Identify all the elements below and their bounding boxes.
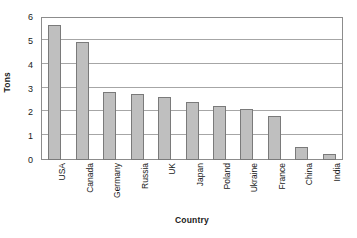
x-axis-tick-label: UK bbox=[168, 163, 177, 175]
x-axis-tick-label: Japan bbox=[196, 163, 205, 186]
gridline bbox=[42, 63, 342, 64]
y-axis-tick-label: 4 bbox=[28, 60, 33, 69]
x-axis-tick-label: Poland bbox=[223, 163, 232, 189]
x-axis-tick-label: Ukraine bbox=[250, 163, 259, 192]
x-axis-tick-label: India bbox=[333, 163, 342, 181]
x-axis-tick-label: China bbox=[305, 163, 314, 185]
y-axis-tick-label: 3 bbox=[28, 84, 33, 93]
bar-chart-figure: Tons 0123456 USACanadaGermanyRussiaUKJap… bbox=[0, 0, 357, 238]
plot-area bbox=[41, 17, 343, 160]
y-axis-tick-label: 0 bbox=[28, 156, 33, 165]
x-axis-tick-label: Germany bbox=[113, 163, 122, 198]
gridline bbox=[42, 39, 342, 40]
y-axis-tick-label: 2 bbox=[28, 108, 33, 117]
gridline bbox=[42, 87, 342, 88]
y-axis-tick-label: 5 bbox=[28, 36, 33, 45]
x-axis-tick-label: Russia bbox=[141, 163, 150, 189]
gridline bbox=[42, 110, 342, 111]
x-axis-tick-labels: USACanadaGermanyRussiaUKJapanPolandUkrai… bbox=[41, 161, 343, 209]
y-axis-tick-label: 1 bbox=[28, 132, 33, 141]
x-axis-tick-label: France bbox=[278, 163, 287, 189]
y-axis-tick-label: 6 bbox=[28, 13, 33, 22]
y-axis-tick-labels: 0123456 bbox=[0, 17, 37, 160]
x-axis-tick-label: USA bbox=[58, 163, 67, 180]
gridline bbox=[42, 134, 342, 135]
x-axis-tick-label: Canada bbox=[86, 163, 95, 193]
x-axis-title: Country bbox=[41, 215, 343, 225]
